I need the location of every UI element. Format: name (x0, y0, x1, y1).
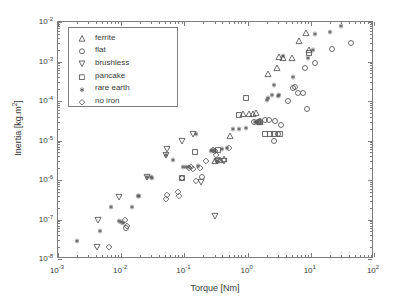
y-tick-minor-right (370, 77, 372, 78)
y-tick-minor (58, 117, 60, 118)
y-tick-minor-right (370, 50, 372, 51)
y-tick-minor-right (370, 24, 372, 25)
data-point-diamond (211, 147, 218, 154)
y-tick-major (58, 62, 62, 63)
x-tick-major-top (184, 22, 185, 26)
y-tick-minor-right (370, 63, 372, 64)
x-tick-minor (371, 255, 372, 257)
legend-item-pancake[interactable]: pancake (69, 69, 177, 82)
y-tick-minor-right (370, 65, 372, 66)
x-tick-minor-top (96, 22, 97, 24)
data-point-circle (290, 85, 297, 92)
y-tick-minor (58, 122, 60, 123)
x-tick-minor (297, 255, 298, 257)
y-tick-minor-right (370, 186, 372, 187)
data-point-star (255, 119, 261, 125)
y-tick-major-right (368, 141, 372, 142)
data-point-star (265, 95, 271, 101)
y-tick-minor-right (370, 34, 372, 35)
x-tick-mantissa: 10 (304, 266, 313, 275)
y-tick-minor (58, 65, 60, 66)
y-tick-mantissa: 10 (39, 215, 48, 224)
x-tick-major-top (121, 22, 122, 26)
data-point-star (183, 164, 189, 170)
x-tick-minor (165, 255, 166, 257)
data-point-square (236, 111, 242, 117)
x-tick-minor (222, 255, 223, 257)
data-point-star (224, 145, 230, 151)
y-tick-major-right (368, 259, 372, 260)
x-tick-minor-top (203, 22, 204, 24)
y-axis-title-text: Inertia [kg.m2] (13, 100, 23, 156)
y-tick-minor (58, 189, 60, 190)
y-tick-minor (58, 228, 60, 229)
legend-label: brushless (95, 58, 129, 67)
x-tick-minor (286, 255, 287, 257)
y-tick-minor (58, 24, 60, 25)
x-tick-mantissa: 10 (176, 266, 185, 275)
y-tick-minor (58, 43, 60, 44)
x-tick-minor (140, 255, 141, 257)
data-point-star (130, 204, 136, 210)
y-tick-minor-right (370, 182, 372, 183)
y-tick-exponent: -6 (48, 174, 53, 180)
data-point-square (262, 131, 268, 137)
data-point-circle (348, 39, 355, 46)
y-tick-minor (58, 156, 60, 157)
data-point-star (149, 174, 155, 180)
x-tick-minor-top (301, 22, 302, 24)
y-tick-major (58, 141, 62, 142)
x-tick-minor (229, 255, 230, 257)
x-tick-minor-top (175, 22, 176, 24)
y-tick-minor (58, 152, 60, 153)
x-tick-minor (305, 255, 306, 257)
x-tick-exponent: -1 (185, 264, 190, 270)
x-tick-minor (77, 255, 78, 257)
y-tick-major (58, 259, 62, 260)
data-point-star (170, 157, 176, 163)
y-tick-minor (58, 38, 60, 39)
data-point-circle (262, 116, 269, 123)
legend-label: flat (95, 45, 106, 54)
data-point-diamond (186, 165, 193, 172)
y-tick-minor (58, 73, 60, 74)
data-point-triangle-up (275, 53, 282, 60)
x-tick-minor (151, 255, 152, 257)
y-tick-minor (58, 82, 60, 83)
legend-item-no-iron[interactable]: no iron (69, 94, 177, 107)
y-tick-major (58, 22, 62, 23)
data-point-circle (304, 105, 311, 112)
data-point-star (252, 119, 258, 125)
x-tick-minor-top (88, 22, 89, 24)
x-tick-major-top (374, 22, 375, 26)
legend-label: no iron (95, 96, 119, 105)
y-tick-minor-right (370, 107, 372, 108)
x-tick-minor-top (330, 22, 331, 24)
x-tick-minor-top (151, 22, 152, 24)
data-point-star (208, 148, 214, 154)
data-point-circle (329, 45, 336, 52)
y-tick-minor-right (370, 26, 372, 27)
data-point-diamond (189, 166, 196, 173)
y-tick-minor (58, 142, 60, 143)
x-tick-minor-top (118, 22, 119, 24)
data-point-circle (255, 118, 262, 125)
x-tick-minor (88, 255, 89, 257)
y-tick-minor (58, 63, 60, 64)
data-point-diamond (187, 164, 194, 171)
legend-label: rare earth (95, 83, 130, 92)
y-tick-minor-right (370, 144, 372, 145)
y-tick-minor-right (370, 196, 372, 197)
data-point-star (271, 82, 277, 88)
x-tick-minor (360, 255, 361, 257)
y-tick-minor (58, 186, 60, 187)
data-point-triangle-up (256, 118, 263, 125)
y-tick-major-right (368, 62, 372, 63)
data-point-star (311, 48, 317, 54)
y-tick-exponent: -7 (48, 213, 53, 219)
data-point-star (164, 152, 170, 158)
y-tick-minor-right (370, 68, 372, 69)
legend-label: pancake (95, 71, 125, 80)
data-point-square (243, 95, 249, 101)
data-point-triangle-up (279, 54, 286, 61)
